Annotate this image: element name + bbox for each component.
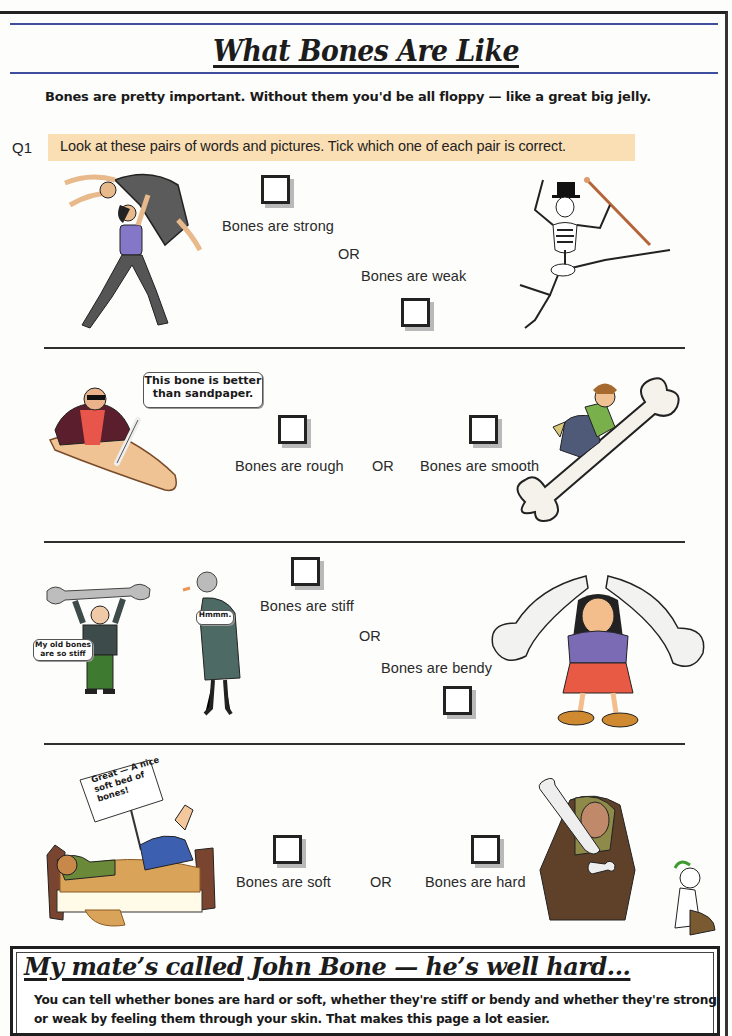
boy-sliding-down-bone-illustration <box>505 362 685 530</box>
dancer-lift-illustration <box>60 165 210 337</box>
option-label-rough: Bones are rough <box>235 458 344 474</box>
or-separator: OR <box>359 628 381 644</box>
speech-bubble-sandpaper: This bone is better than sandpaper. <box>143 372 263 408</box>
header-rule-bottom <box>10 72 718 74</box>
question-instruction: Look at these pairs of words and picture… <box>48 134 635 161</box>
option-label-hard: Bones are hard <box>425 874 526 890</box>
speech-bubble-hmmm: Hmmm. <box>196 610 234 625</box>
tickbox-bones-are-stiff[interactable] <box>291 557 320 586</box>
intro-text: Bones are pretty important. Without them… <box>45 89 651 104</box>
dancing-skeleton-illustration <box>505 170 685 330</box>
tickbox-bones-are-hard[interactable] <box>471 835 500 864</box>
option-label-strong: Bones are strong <box>222 218 334 234</box>
woman-bending-bone-illustration <box>488 568 710 733</box>
question-number: Q1 <box>12 139 32 156</box>
option-label-soft: Bones are soft <box>236 874 331 890</box>
option-label-stiff: Bones are stiff <box>260 598 354 614</box>
section-divider <box>44 541 685 543</box>
tickbox-bones-are-rough[interactable] <box>278 415 307 444</box>
tickbox-bones-are-weak[interactable] <box>401 298 430 327</box>
footer-title: My mate’s called John Bone — he’s well h… <box>24 952 630 981</box>
or-separator: OR <box>370 874 392 890</box>
speech-bubble-stiff: My old bones are so stiff <box>33 639 93 661</box>
tickbox-bones-are-soft[interactable] <box>273 835 302 864</box>
tickbox-bones-are-strong[interactable] <box>261 175 290 204</box>
old-woman-illustration <box>185 568 250 718</box>
or-separator: OR <box>338 246 360 262</box>
section-divider <box>44 347 685 349</box>
section-divider <box>44 743 685 745</box>
caveman-bonking-illustration <box>530 770 730 940</box>
or-separator: OR <box>372 458 394 474</box>
option-label-weak: Bones are weak <box>361 268 466 284</box>
header-rule-top <box>10 23 718 25</box>
footer-text: You can tell whether bones are hard or s… <box>34 991 724 1029</box>
tickbox-bones-are-bendy[interactable] <box>443 686 472 715</box>
page-title: What Bones Are Like <box>29 34 702 68</box>
option-label-bendy: Bones are bendy <box>381 660 492 676</box>
tickbox-bones-are-smooth[interactable] <box>469 415 498 444</box>
